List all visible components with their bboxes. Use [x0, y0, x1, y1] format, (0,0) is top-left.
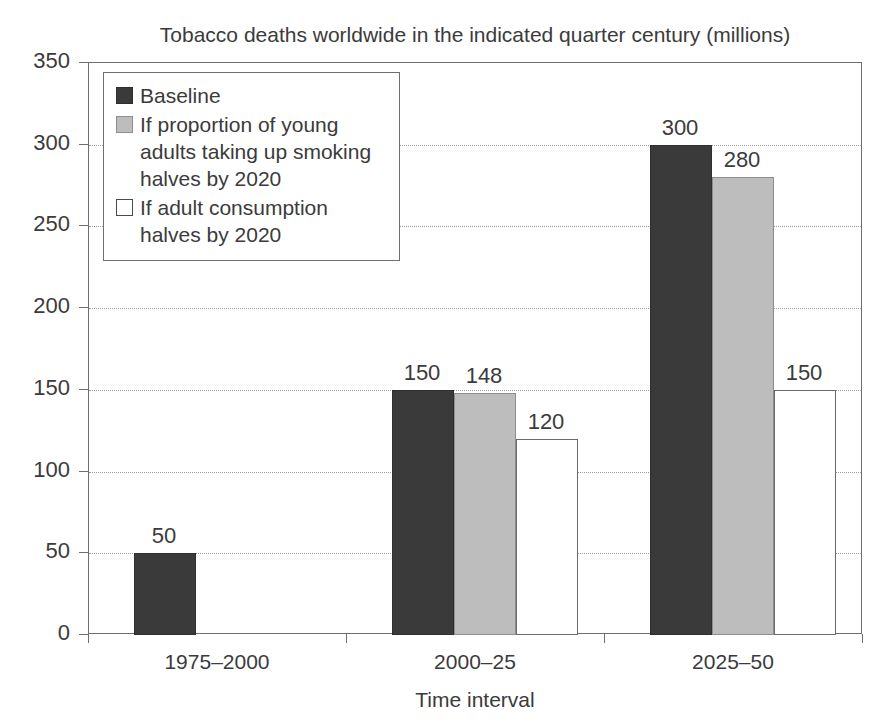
bar-value-label: 50	[123, 524, 205, 548]
y-tick-mark	[79, 552, 88, 553]
chart-legend: BaselineIf proportion of young adults ta…	[103, 72, 400, 261]
legend-entry: If adult consumption halves by 2020	[116, 194, 389, 248]
bar-value-label: 120	[505, 410, 587, 434]
bar-value-label: 148	[443, 364, 525, 388]
y-tick-mark	[79, 225, 88, 226]
legend-swatch-icon	[116, 87, 133, 104]
chart-title: Tobacco deaths worldwide in the indicate…	[88, 22, 862, 48]
x-tick-label: 2025–50	[604, 650, 862, 674]
y-tick-mark	[79, 389, 88, 390]
x-tick-label: 2000–25	[346, 650, 604, 674]
x-axis-title: Time interval	[88, 688, 862, 712]
y-tick-label: 150	[0, 377, 70, 399]
x-tick-mark	[604, 634, 605, 643]
y-tick-label: 100	[0, 459, 70, 481]
bar-value-label: 300	[639, 116, 721, 140]
y-tick-mark	[79, 144, 88, 145]
legend-label: Baseline	[140, 82, 221, 109]
y-tick-label: 300	[0, 132, 70, 154]
x-tick-mark	[346, 634, 347, 643]
y-tick-label: 200	[0, 295, 70, 317]
legend-entry: If proportion of young adults taking up …	[116, 111, 389, 192]
legend-swatch-icon	[116, 116, 133, 133]
x-tick-label: 1975–2000	[88, 650, 346, 674]
legend-label: If proportion of young adults taking up …	[140, 111, 389, 192]
bar	[774, 390, 836, 635]
bar-value-label: 280	[701, 148, 783, 172]
bar	[134, 553, 196, 635]
bar	[650, 145, 712, 635]
x-tick-mark	[88, 634, 89, 643]
bar	[712, 177, 774, 635]
legend-swatch-icon	[116, 199, 133, 216]
bar	[516, 439, 578, 635]
bar-value-label: 150	[763, 361, 845, 385]
y-tick-mark	[79, 634, 88, 635]
y-tick-mark	[79, 62, 88, 63]
y-tick-label: 50	[0, 540, 70, 562]
bar	[392, 390, 454, 635]
x-tick-mark	[862, 634, 863, 643]
chart-figure: Tobacco deaths worldwide in the indicate…	[0, 0, 888, 728]
y-tick-label: 250	[0, 213, 70, 235]
y-tick-mark	[79, 307, 88, 308]
legend-label: If adult consumption halves by 2020	[140, 194, 389, 248]
legend-entry: Baseline	[116, 82, 389, 109]
y-tick-mark	[79, 471, 88, 472]
y-tick-label: 0	[0, 622, 70, 644]
y-tick-label: 350	[0, 50, 70, 72]
